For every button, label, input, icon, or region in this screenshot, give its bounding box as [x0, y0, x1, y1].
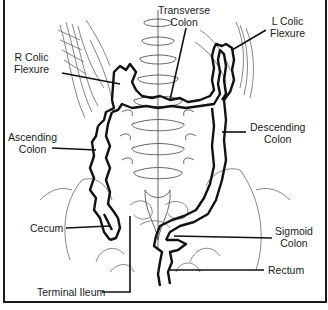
pointer-l-colic-flexure [232, 30, 266, 50]
label-r-colic-flexure: R ColicFlexure [14, 51, 49, 75]
small-intestine [130, 201, 188, 228]
pointer-sigmoid-colon [174, 236, 272, 238]
label-sigmoid-colon: SigmoidColon [275, 225, 313, 249]
spine [120, 10, 196, 250]
label-rectum: Rectum [268, 264, 304, 276]
label-ascending-colon: AscendingColon [8, 131, 57, 155]
label-terminal-ileum: Terminal Ileum [37, 286, 105, 298]
label-descending-colon: DescendingColon [250, 121, 305, 145]
label-cecum: Cecum [30, 222, 63, 234]
pelvis [40, 169, 290, 272]
label-transverse-colon: TransverseColon [158, 4, 210, 28]
pointer-ascending-colon [52, 148, 96, 150]
colon-anatomy-figure: TransverseColon L ColicFlexure R ColicFl… [0, 0, 328, 310]
label-l-colic-flexure: L ColicFlexure [270, 15, 305, 39]
pointer-terminal-ileum [102, 216, 130, 292]
pointer-r-colic-flexure [62, 73, 120, 84]
ribs-left [58, 20, 112, 118]
